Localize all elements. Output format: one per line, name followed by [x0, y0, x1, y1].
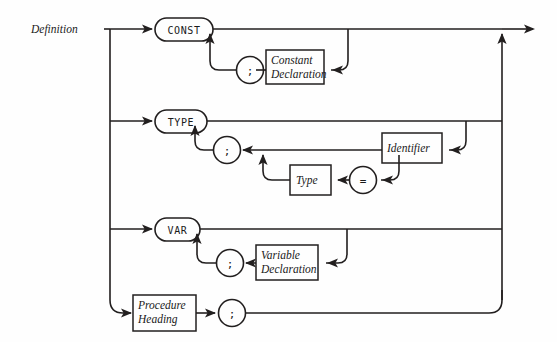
var-terminal-label: VAR	[168, 225, 188, 236]
entry-label-text: Definition	[30, 23, 78, 36]
left-bus-wire	[110, 29, 131, 313]
const-terminal-label: CONST	[167, 25, 200, 36]
procedure-heading-line1: Procedure	[137, 299, 186, 311]
equals-sign-label: =	[360, 175, 367, 188]
var-semicolon-label: ;	[227, 258, 234, 271]
identifier-label: Identifier	[386, 142, 430, 155]
entry-label-group: Definition	[30, 23, 78, 36]
identifier-feed-wire	[449, 121, 466, 150]
const-loop-feed-wire	[331, 29, 348, 70]
type-branch-group: TYPE ; Identifier	[110, 110, 502, 195]
var-loop-return-wire	[197, 234, 216, 263]
syntax-diagram-page: Definition CONST ;	[0, 0, 557, 342]
constant-declaration-line1: Constant	[271, 54, 313, 66]
procedure-heading-line2: Heading	[137, 313, 178, 326]
procedure-branch-group: Procedure Heading ;	[121, 290, 502, 331]
railroad-diagram-canvas: Definition CONST ;	[0, 0, 557, 342]
type-box-label: Type	[296, 174, 318, 187]
const-loop-return-wire	[210, 34, 237, 70]
var-loop-feed-wire	[326, 229, 347, 263]
procedure-exit-wire	[246, 290, 503, 313]
const-semicolon-label: ;	[247, 65, 254, 78]
exit-group	[497, 24, 535, 300]
variable-declaration-line2: Declaration	[260, 263, 317, 275]
type-inner-return-wire	[263, 155, 290, 180]
var-branch-group: VAR ; Variable Declaration	[110, 218, 502, 280]
procedure-semicolon-label: ;	[229, 308, 236, 321]
type-terminal-label: TYPE	[168, 117, 194, 128]
variable-declaration-line1: Variable	[261, 249, 300, 261]
const-branch-group: CONST ; Constant Declaration	[110, 18, 502, 84]
constant-declaration-line2: Declaration	[270, 68, 327, 80]
type-semicolon-label: ;	[224, 145, 231, 158]
